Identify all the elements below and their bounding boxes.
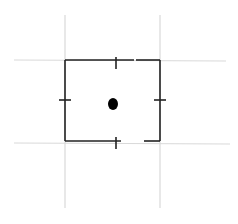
grid-line-horizontal-bottom bbox=[14, 143, 230, 144]
diagram-canvas bbox=[0, 0, 238, 224]
grid-lines bbox=[14, 15, 230, 208]
center-dot bbox=[108, 98, 118, 110]
